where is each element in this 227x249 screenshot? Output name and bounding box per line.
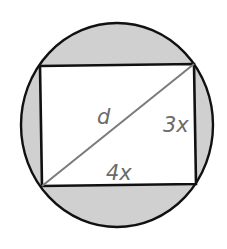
width-label: 4x	[106, 161, 132, 185]
diagram-canvas: d 3x 4x	[0, 0, 227, 249]
diagram-figure: d 3x 4x	[0, 0, 227, 249]
height-label: 3x	[163, 113, 189, 137]
diagonal-label: d	[97, 105, 111, 129]
